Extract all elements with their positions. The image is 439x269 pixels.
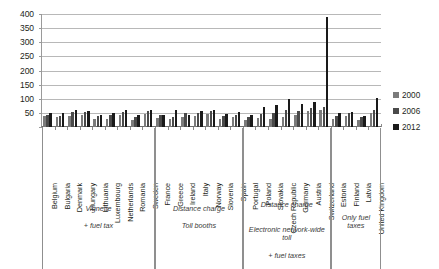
bar-group <box>230 14 243 127</box>
bar-2012 <box>351 112 354 127</box>
bar-group <box>368 14 381 127</box>
group-caption-secondary: Toll booths <box>156 222 242 230</box>
bar-2012 <box>288 99 291 127</box>
bar-2012 <box>200 111 203 127</box>
y-tick-label: 400 <box>20 10 34 19</box>
bar-2012 <box>49 113 52 127</box>
legend-swatch-icon <box>393 92 399 98</box>
group-caption-primary: Distance charge <box>156 205 242 213</box>
bar-group <box>193 14 206 127</box>
bar-group <box>318 14 331 127</box>
bar-2012 <box>137 115 140 127</box>
bar-2012 <box>87 111 90 127</box>
bar-2012 <box>250 115 253 127</box>
bar-group <box>243 14 256 127</box>
bar-2012 <box>188 115 191 127</box>
group-caption-secondary: Electronic network-wide toll <box>244 226 330 243</box>
bar-group <box>331 14 344 127</box>
group-caption-primary: Distance charge <box>244 201 330 209</box>
bar-2012 <box>175 110 178 128</box>
bar-group <box>105 14 118 127</box>
bar-2012 <box>125 110 128 127</box>
group-caption-secondary: + fuel tax <box>43 222 154 230</box>
bar-2012 <box>75 110 78 128</box>
bar-2012 <box>263 107 266 127</box>
bar-2012 <box>376 98 379 127</box>
y-axis: 50100150200250300350400 <box>0 0 38 141</box>
group-distance-charge-electronic-toll: Distance chargeElectronic network-wide t… <box>243 128 331 269</box>
group-caption-primary: Vignette <box>43 205 154 213</box>
legend-swatch-icon <box>393 108 399 114</box>
legend-item-2006[interactable]: 2006 <box>393 104 439 118</box>
bar-group <box>168 14 181 127</box>
bar-group <box>255 14 268 127</box>
legend-item-2012[interactable]: 2012 <box>393 120 439 134</box>
y-tick-label: 150 <box>20 80 34 89</box>
bar-group <box>218 14 231 127</box>
bar-group <box>281 14 294 127</box>
bar-2012 <box>162 115 165 127</box>
bar-2012 <box>225 114 228 127</box>
bar-2012 <box>301 104 304 127</box>
bar-group <box>343 14 356 127</box>
bar-2012 <box>150 110 153 128</box>
bar-group <box>55 14 68 127</box>
y-tick-label: 300 <box>20 38 34 47</box>
bar-group <box>155 14 168 127</box>
bar-group <box>293 14 306 127</box>
bar-group <box>117 14 130 127</box>
group-annotations: Vignette+ fuel taxDistance chargeToll bo… <box>42 128 381 269</box>
bar-2012 <box>213 110 216 127</box>
legend: 200020062012 <box>393 88 439 136</box>
bar-group <box>306 14 319 127</box>
bars-layer <box>42 14 381 127</box>
x-tick-mark <box>381 124 382 127</box>
y-tick-label: 250 <box>20 52 34 61</box>
bar-chart: 50100150200250300350400 BelgiumBulgariaD… <box>0 0 439 269</box>
bar-2012 <box>338 113 341 127</box>
bar-2012 <box>313 102 316 127</box>
y-tick-label: 350 <box>20 24 34 33</box>
legend-swatch-icon <box>393 124 399 130</box>
group-caption-secondary: Only fuel taxes <box>332 214 380 231</box>
bar-group <box>180 14 193 127</box>
group-caption-tertiary: + fuel taxes <box>244 252 330 260</box>
bar-group <box>42 14 55 127</box>
bar-group <box>130 14 143 127</box>
group-distance-charge-toll-booths: Distance chargeToll booths <box>155 128 243 269</box>
legend-item-2000[interactable]: 2000 <box>393 88 439 102</box>
group-only-fuel-taxes: Only fuel taxes <box>331 128 381 269</box>
y-tick-label: 200 <box>20 66 34 75</box>
bar-2012 <box>100 115 103 127</box>
legend-label: 2006 <box>402 107 420 116</box>
bar-2012 <box>238 112 241 127</box>
bar-2012 <box>326 17 329 127</box>
bar-group <box>356 14 369 127</box>
bar-2012 <box>275 105 278 127</box>
bar-2012 <box>112 113 115 127</box>
bar-group <box>67 14 80 127</box>
y-tick-label: 100 <box>20 94 34 103</box>
y-tick-label: 50 <box>25 108 34 117</box>
bar-2012 <box>363 116 366 127</box>
legend-label: 2000 <box>402 91 420 100</box>
bar-group <box>80 14 93 127</box>
legend-label: 2012 <box>402 123 420 132</box>
bar-2012 <box>62 113 65 127</box>
bar-group <box>92 14 105 127</box>
bar-group <box>268 14 281 127</box>
bar-group <box>205 14 218 127</box>
group-vignette: Vignette+ fuel tax <box>42 128 155 269</box>
bar-group <box>142 14 155 127</box>
